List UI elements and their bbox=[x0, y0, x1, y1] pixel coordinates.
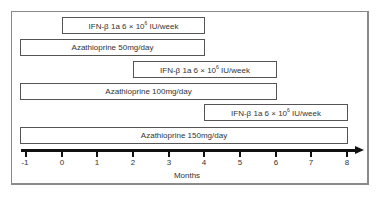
tick-mark bbox=[96, 149, 98, 157]
ifn-bar-1: IFN-β 1a 6 × 106 IU/week bbox=[62, 17, 205, 34]
azathioprine-50-bar: Azathioprine 50mg/day bbox=[20, 39, 205, 56]
tick-label: 2 bbox=[123, 158, 143, 167]
tick-label: 3 bbox=[159, 158, 179, 167]
axis-arrow-icon bbox=[355, 146, 364, 154]
tick-mark bbox=[61, 149, 63, 157]
ifn-bar-2: IFN-β 1a 6 × 106 IU/week bbox=[133, 61, 277, 78]
tick-mark bbox=[25, 149, 27, 157]
ifn-bar-3: IFN-β 1a 6 × 106 IU/week bbox=[204, 104, 348, 121]
tick-label: 6 bbox=[266, 158, 286, 167]
tick-mark bbox=[168, 149, 170, 157]
tick-mark bbox=[275, 149, 277, 157]
azathioprine-50-label: Azathioprine 50mg/day bbox=[72, 43, 154, 52]
ifn-bar-1-label: IFN-β 1a 6 × 106 IU/week bbox=[89, 20, 179, 31]
tick-mark bbox=[239, 149, 241, 157]
tick-label: -1 bbox=[15, 158, 35, 167]
tick-mark bbox=[346, 149, 348, 157]
ifn-bar-2-label: IFN-β 1a 6 × 106 IU/week bbox=[160, 64, 250, 75]
tick-label: 1 bbox=[87, 158, 107, 167]
tick-label: 8 bbox=[337, 158, 357, 167]
tick-mark bbox=[132, 149, 134, 157]
tick-label: 7 bbox=[301, 158, 321, 167]
azathioprine-150-label: Azathioprine 150mg/day bbox=[141, 131, 227, 140]
azathioprine-100-label: Azathioprine 100mg/day bbox=[105, 87, 191, 96]
tick-mark bbox=[310, 149, 312, 157]
tick-mark bbox=[203, 149, 205, 157]
time-axis-line bbox=[21, 149, 357, 152]
ifn-bar-3-label: IFN-β 1a 6 × 106 IU/week bbox=[231, 107, 321, 118]
tick-label: 5 bbox=[230, 158, 250, 167]
tick-label: 4 bbox=[194, 158, 214, 167]
azathioprine-150-bar: Azathioprine 150mg/day bbox=[20, 127, 348, 144]
azathioprine-100-bar: Azathioprine 100mg/day bbox=[20, 83, 277, 100]
tick-label: 0 bbox=[52, 158, 72, 167]
x-axis-label: Months bbox=[167, 171, 207, 180]
